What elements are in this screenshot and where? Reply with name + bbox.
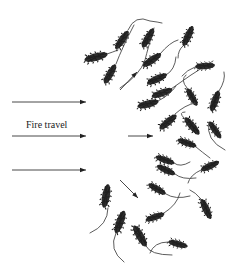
seed-awn [160,40,178,54]
seed-awn [146,246,172,255]
seed-awn [166,194,190,198]
seed-awn [181,112,185,118]
seed-awn [178,46,183,58]
seed-head-icon [139,50,164,72]
seed-awn [174,162,190,165]
awned-seed [183,75,201,108]
seed-head-icon [110,209,129,236]
seed-head-icon [143,209,166,225]
seed-motion-arrow [120,180,138,198]
seed-awn [128,19,162,30]
arrows-group [12,72,153,198]
seed-head-icon [100,62,120,87]
fire-travel-arrow [12,168,86,172]
awned-seed [82,49,118,66]
seed-head-icon [194,61,216,72]
seed-awn [164,193,180,213]
arrowhead-icon [147,134,153,138]
fire-travel-arrow [12,134,86,138]
awned-seed [178,24,197,58]
seed-head-icon [138,26,158,51]
seed-awn [107,50,118,54]
seeds-group [82,19,225,262]
seed-awn [113,233,124,262]
seed-head-icon [129,222,151,249]
awned-seed [188,158,221,183]
seed-motion-arrow [120,72,137,90]
seed-head-icon [175,135,198,151]
awned-seed [129,222,172,255]
seed-head-icon [82,49,109,66]
seed-awn [182,67,195,76]
seed-awn [219,72,224,91]
seed-head-icon [144,70,169,89]
awned-seed [145,180,190,198]
arrowhead-icon [80,134,86,138]
seed-head-icon [205,118,225,140]
arrowhead-icon [80,168,86,172]
seed-awn [90,208,108,233]
awned-seed [190,190,215,221]
seed-head-icon [206,89,223,114]
fire-travel-label: Fire travel [26,119,67,130]
seed-head-icon [183,85,201,108]
seed-awn [190,190,201,199]
fire-travel-arrow [12,100,86,104]
arrowhead-icon [80,100,86,104]
seed-head-icon [198,158,221,175]
awned-seed [175,135,210,158]
awned-seed [110,209,129,262]
seed-awn [188,170,201,183]
seed-awn [183,75,187,88]
seed-awn [150,242,168,253]
seed-motion-arrow [128,134,153,138]
awned-seed [206,72,224,114]
seed-head-icon [98,183,113,210]
awned-seed [143,193,180,225]
fire-seed-diagram [0,0,237,267]
awned-seed [205,118,225,150]
awned-seed [180,112,203,138]
seed-awn [166,57,176,75]
seed-head-icon [111,28,133,53]
awned-seed [90,183,114,233]
seed-head-icon [178,24,197,49]
seed-head-icon [155,111,179,134]
seed-head-icon [145,180,168,198]
seed-head-icon [196,196,215,221]
seed-awn [196,147,210,158]
seed-head-icon [166,237,189,251]
seed-head-icon [135,96,160,112]
awned-seed [150,237,189,253]
